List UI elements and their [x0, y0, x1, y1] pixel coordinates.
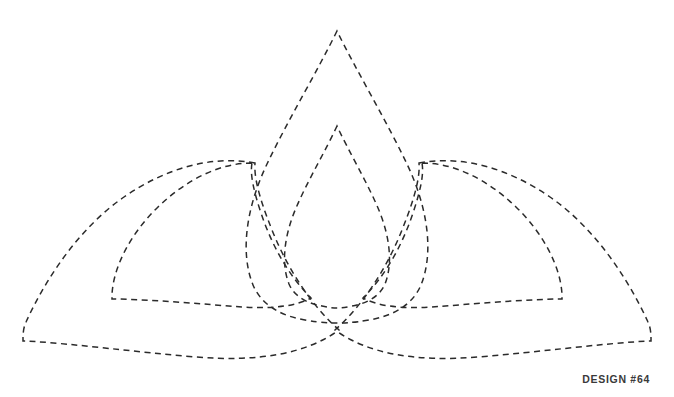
design-artwork [0, 0, 674, 397]
design-caption: DESIGN #64 [582, 373, 650, 385]
left-inner-petal [112, 163, 311, 308]
right-outer-petal [335, 161, 651, 359]
design-page: DESIGN #64 [0, 0, 674, 397]
center-small-arch [285, 126, 390, 308]
left-outer-petal [23, 161, 339, 359]
design-paths-group [23, 31, 651, 358]
center-large-arch [246, 31, 428, 323]
right-inner-petal [363, 163, 562, 308]
